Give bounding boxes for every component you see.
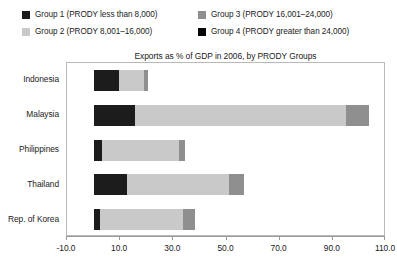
bar-segment [127,174,229,195]
bar-segment [100,209,182,230]
bar-segment [119,70,144,91]
x-axis-tick-label: -10.0 [57,243,76,253]
x-axis-tick-label: 30.0 [164,243,180,253]
chart-plot-area [66,62,385,236]
bar-segment [229,174,244,195]
x-axis-tick [66,236,67,240]
x-axis-tick [279,236,280,240]
legend-swatch-icon-group-3 [198,11,206,19]
legend-column-left: Group 1 (PRODY less than 8,000) Group 2 … [22,7,158,41]
legend-label-group-2: Group 2 (PRODY 8,001–16,000) [35,27,152,37]
x-axis-tick-label: 70.0 [271,243,287,253]
chart-legend: Group 1 (PRODY less than 8,000) Group 2 … [0,0,397,44]
legend-label-group-3: Group 3 (PRODY 16,001–24,000) [211,10,333,20]
bar-row [94,174,244,195]
x-axis-tick [172,236,173,240]
y-axis-label: Thailand [27,179,59,189]
x-axis-tick [119,236,120,240]
x-axis: -10.010.030.050.070.090.0110.0 [66,236,385,262]
bar-segment [94,209,101,230]
legend-swatch-icon-group-1 [22,11,30,19]
bar-segment [94,105,135,126]
y-axis-label: Malaysia [26,109,59,119]
y-axis-label: Rep. of Korea [8,214,59,224]
legend-label-group-4: Group 4 (PRODY greater than 24,000) [211,27,349,37]
legend-item-group-2: Group 2 (PRODY 8,001–16,000) [22,24,158,39]
y-axis-label: Indonesia [23,74,59,84]
bar-row [94,70,148,91]
bar-segment [135,105,346,126]
bar-segment [183,209,195,230]
bar-segment [94,174,127,195]
x-axis-tick [226,236,227,240]
chart-bars-container [67,63,384,235]
legend-item-group-4: Group 4 (PRODY greater than 24,000) [198,24,349,39]
legend-swatch-icon-group-4 [198,28,206,36]
legend-label-group-1: Group 1 (PRODY less than 8,000) [35,10,158,20]
bar-segment [94,140,102,161]
bar-segment [346,105,369,126]
x-axis-tick-label: 110.0 [375,243,395,253]
bar-segment [144,70,148,91]
legend-swatch-icon-group-2 [22,28,30,36]
bar-row [94,105,369,126]
y-axis-category-labels: IndonesiaMalaysiaPhilippinesThailandRep.… [0,62,62,236]
legend-item-group-3: Group 3 (PRODY 16,001–24,000) [198,7,349,22]
x-axis-tick [384,236,385,240]
legend-item-group-1: Group 1 (PRODY less than 8,000) [22,7,158,22]
legend-column-right: Group 3 (PRODY 16,001–24,000) Group 4 (P… [198,7,349,41]
x-axis-tick [332,236,333,240]
x-axis-tick-label: 50.0 [217,243,233,253]
chart-title: Exports as % of GDP in 2006, by PRODY Gr… [66,51,385,61]
bar-row [94,140,186,161]
x-axis-tick-label: 90.0 [324,243,340,253]
bar-segment [94,70,119,91]
y-axis-label: Philippines [19,144,59,154]
bar-row [94,209,195,230]
bar-segment [179,140,186,161]
x-axis-tick-label: 10.0 [111,243,127,253]
bar-segment [102,140,179,161]
